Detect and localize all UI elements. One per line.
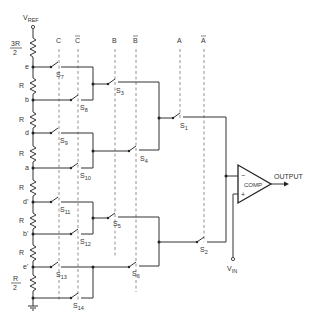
control-lines: C C B B A A	[56, 36, 206, 302]
vin-input: VIN	[227, 194, 238, 274]
vref-label: VREF	[23, 14, 39, 23]
svg-text:2: 2	[13, 284, 17, 291]
svg-text:d': d'	[23, 198, 28, 205]
svg-text:R: R	[19, 184, 24, 191]
ground-icon	[28, 306, 38, 310]
switch-bank-c: S7 S8 S9 S10 S11 S12 S13	[33, 62, 93, 311]
resistor-r6	[30, 245, 36, 261]
comparator: − + COMP OUTPUT	[238, 165, 304, 203]
output-label: OUTPUT	[274, 173, 304, 180]
svg-text:S7: S7	[56, 71, 64, 80]
switch-bank-b: S3 S4 S5 S6	[93, 79, 159, 279]
svg-text:A: A	[177, 37, 182, 44]
svg-text:b': b'	[23, 230, 28, 237]
svg-text:S12: S12	[80, 238, 91, 247]
svg-text:B: B	[133, 37, 138, 44]
junction-dots	[32, 66, 228, 300]
resistor-r1	[30, 78, 36, 94]
svg-text:COMP: COMP	[244, 182, 262, 188]
svg-text:S8: S8	[80, 104, 88, 113]
svg-text:S9: S9	[60, 137, 68, 146]
resistor-r2	[30, 112, 36, 128]
svg-text:A: A	[201, 37, 206, 44]
svg-text:R: R	[19, 116, 24, 123]
svg-text:d: d	[25, 129, 29, 136]
resistor-r5	[30, 213, 36, 229]
svg-text:e': e'	[23, 263, 28, 270]
svg-text:R: R	[19, 249, 24, 256]
node-labels: e b d a d' b' e'	[23, 63, 29, 270]
circuit-diagram: VREF 3R 2 R R R R R R R	[0, 0, 317, 327]
svg-text:S13: S13	[56, 271, 67, 280]
svg-text:b: b	[25, 96, 29, 103]
svg-text:S6: S6	[132, 270, 140, 279]
svg-text:−: −	[241, 172, 245, 179]
svg-text:S14: S14	[73, 302, 84, 311]
svg-text:C: C	[56, 37, 61, 44]
resistor-r4	[30, 180, 36, 196]
svg-text:R: R	[19, 150, 24, 157]
svg-text:R: R	[19, 217, 24, 224]
svg-text:S3: S3	[116, 87, 124, 96]
svg-text:S1: S1	[180, 122, 188, 131]
switch-bank-a: S1 S2	[159, 113, 238, 255]
svg-text:2: 2	[13, 49, 17, 56]
resistor-labels: 3R 2 R R R R R R R 2	[10, 40, 24, 291]
svg-text:C: C	[75, 37, 80, 44]
svg-text:B: B	[112, 37, 117, 44]
svg-text:R: R	[19, 82, 24, 89]
svg-text:e: e	[25, 63, 29, 70]
resistor-r3	[30, 146, 36, 162]
svg-text:S11: S11	[60, 206, 70, 215]
svg-text:VIN: VIN	[227, 265, 237, 274]
svg-text:a: a	[25, 164, 29, 171]
svg-text:VREF: VREF	[23, 14, 39, 23]
svg-text:S4: S4	[140, 155, 148, 164]
resistor-r-2	[30, 275, 36, 291]
svg-text:S2: S2	[200, 246, 208, 255]
svg-text:S10: S10	[80, 172, 91, 181]
output-arrow-icon	[284, 182, 289, 187]
resistor-3r-2	[30, 38, 36, 57]
svg-text:3R: 3R	[11, 40, 20, 47]
svg-text:+: +	[241, 191, 245, 198]
svg-text:R: R	[13, 275, 18, 282]
vref-terminal	[31, 25, 34, 28]
svg-text:S5: S5	[113, 220, 121, 229]
